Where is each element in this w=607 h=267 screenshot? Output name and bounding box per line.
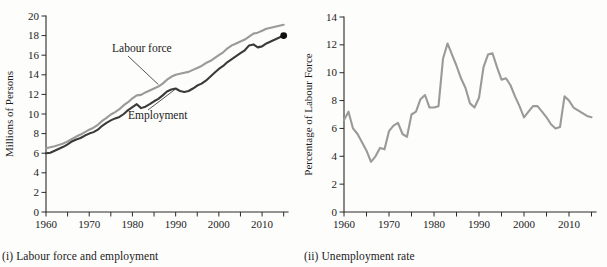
- x-tick-label: 1970: [378, 218, 401, 230]
- y-tick-label: 0: [34, 206, 40, 218]
- y-tick-label: 14: [28, 68, 40, 80]
- series-line-unemployment-rate: [344, 43, 592, 161]
- figure-root: 0246810121416182019601970198019902000201…: [0, 0, 607, 267]
- x-tick-label: 1990: [165, 218, 188, 230]
- y-tick-label: 8: [332, 94, 338, 106]
- unemployment-rate-chart: 02468101214196019701980199020002010YearP…: [300, 0, 607, 238]
- y-tick-label: 2: [332, 178, 338, 190]
- x-tick-label: 2000: [513, 218, 536, 230]
- y-axis-title: Percentage of Labour Force: [302, 53, 314, 176]
- x-tick-label: 1980: [423, 218, 446, 230]
- x-tick-label: 1960: [333, 218, 356, 230]
- y-tick-label: 4: [332, 150, 338, 162]
- x-axis-title: Year: [460, 235, 481, 238]
- y-tick-label: 12: [326, 38, 337, 50]
- panel-caption-i: (i) Labour force and employment: [2, 250, 158, 263]
- x-tick-label: 2010: [558, 218, 581, 230]
- y-tick-label: 10: [326, 66, 338, 78]
- x-tick-label: 1990: [468, 218, 491, 230]
- y-tick-label: 4: [34, 166, 40, 178]
- y-tick-label: 6: [332, 122, 338, 134]
- chart-panel-labour-force-and-employment: 0246810121416182019601970198019902000201…: [0, 0, 300, 267]
- axis-spine: [344, 17, 596, 212]
- x-tick-label: 1960: [35, 218, 58, 230]
- y-tick-label: 8: [34, 127, 40, 139]
- annotation-leader-labour-force: [128, 56, 158, 85]
- series-endpoint-marker: [280, 32, 287, 39]
- y-tick-label: 10: [28, 108, 40, 120]
- x-tick-label: 2000: [208, 218, 231, 230]
- y-tick-label: 2: [34, 186, 40, 198]
- y-tick-label: 14: [326, 11, 338, 23]
- x-tick-label: 1980: [121, 218, 144, 230]
- y-tick-label: 12: [28, 88, 39, 100]
- chart-panel-unemployment-rate: 02468101214196019701980199020002010YearP…: [300, 0, 607, 267]
- y-axis-title: Millions of Persons: [3, 71, 15, 157]
- y-tick-label: 16: [28, 49, 40, 61]
- x-tick-label: 2010: [251, 218, 274, 230]
- y-tick-label: 0: [332, 206, 338, 218]
- annotation-leader-employment: [148, 89, 176, 110]
- annotation-employment: Employment: [128, 109, 188, 122]
- y-tick-label: 6: [34, 147, 40, 159]
- labour-force-and-employment-chart: 0246810121416182019601970198019902000201…: [0, 0, 300, 238]
- x-tick-label: 1970: [78, 218, 101, 230]
- y-tick-label: 18: [28, 29, 40, 41]
- annotation-labour-force: Labour force: [112, 42, 172, 54]
- y-tick-label: 20: [28, 10, 40, 22]
- x-axis-title: Year: [157, 235, 178, 238]
- panel-caption-ii: (ii) Unemployment rate: [304, 250, 415, 263]
